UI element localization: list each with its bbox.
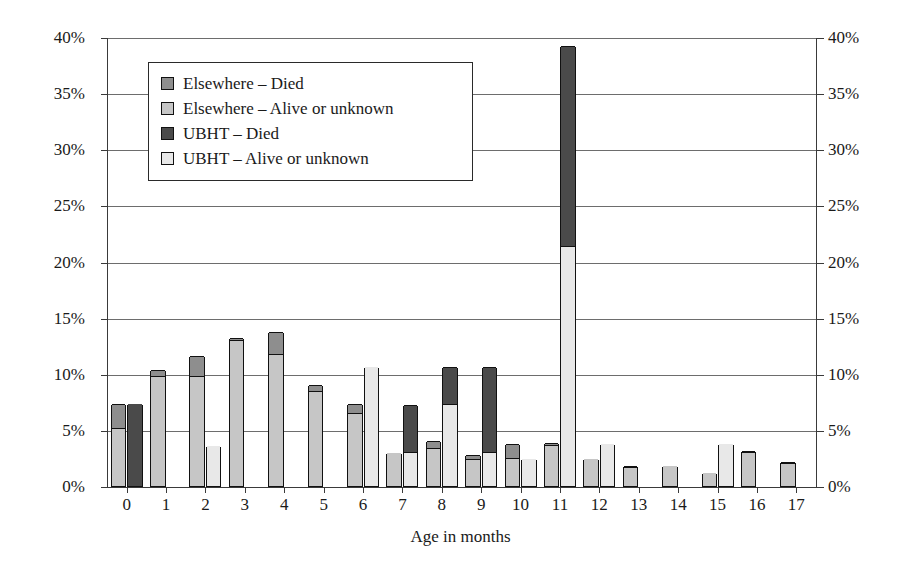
y-tick-label-left-25: 25% xyxy=(54,197,85,214)
x-tick-mark xyxy=(166,487,167,493)
bar-segment xyxy=(190,377,204,486)
x-tick-mark xyxy=(324,487,325,493)
gridline xyxy=(107,319,816,320)
legend-item-elsewhere-died: Elsewhere – Died xyxy=(161,71,460,96)
y-tick-mark xyxy=(101,38,108,39)
bar-elsewhere-month-14 xyxy=(662,467,678,487)
bar-segment xyxy=(483,367,497,453)
legend-item-ubht-died: UBHT – Died xyxy=(161,121,460,146)
bar-elsewhere-month-4 xyxy=(268,333,284,487)
x-tick-label-3: 3 xyxy=(225,496,265,514)
bar-segment xyxy=(427,449,441,486)
y-tick-mark xyxy=(817,38,824,39)
bar-elsewhere-month-8 xyxy=(426,442,442,487)
x-tick-label-1: 1 xyxy=(146,496,186,514)
gridline xyxy=(107,206,816,207)
legend-swatch-elsewhere-alive xyxy=(161,102,174,115)
y-tick-mark xyxy=(101,487,108,488)
gridline xyxy=(107,38,816,39)
x-tick-mark xyxy=(796,487,797,493)
bar-segment xyxy=(506,444,520,459)
x-tick-mark xyxy=(757,487,758,493)
bar-segment xyxy=(151,377,165,486)
x-tick-mark xyxy=(521,487,522,493)
bar-elsewhere-month-6 xyxy=(347,405,363,487)
bar-segment xyxy=(404,405,418,453)
bar-elsewhere-month-12 xyxy=(583,460,599,487)
y-tick-mark xyxy=(817,150,824,151)
bar-segment xyxy=(624,468,638,486)
y-tick-mark xyxy=(817,487,824,488)
bar-ubht-month-12 xyxy=(600,445,616,487)
y-tick-mark xyxy=(101,263,108,264)
gridline xyxy=(107,375,816,376)
bar-segment xyxy=(387,453,401,486)
legend-label-ubht-alive: UBHT – Alive or unknown xyxy=(183,150,369,167)
bar-segment xyxy=(663,466,677,486)
y-tick-label-left-35: 35% xyxy=(54,85,85,102)
x-tick-mark xyxy=(718,487,719,493)
x-axis-title: Age in months xyxy=(0,527,921,547)
legend-item-ubht-alive: UBHT – Alive or unknown xyxy=(161,146,460,171)
y-tick-label-right-25: 25% xyxy=(828,197,859,214)
y-tick-mark xyxy=(817,94,824,95)
y-tick-label-left-0: 0% xyxy=(62,478,85,495)
x-tick-label-5: 5 xyxy=(304,496,344,514)
x-tick-mark xyxy=(481,487,482,493)
bar-ubht-month-0 xyxy=(127,405,143,487)
y-tick-label-right-10: 10% xyxy=(828,366,859,383)
x-tick-mark xyxy=(205,487,206,493)
y-tick-mark xyxy=(101,94,108,95)
bar-ubht-month-10 xyxy=(521,460,537,487)
bar-segment xyxy=(781,462,795,464)
bar-elsewhere-month-11 xyxy=(544,444,560,487)
y-tick-mark xyxy=(817,206,824,207)
legend-item-elsewhere-alive: Elsewhere – Alive or unknown xyxy=(161,96,460,121)
y-tick-label-right-30: 30% xyxy=(828,141,859,158)
x-tick-label-9: 9 xyxy=(461,496,501,514)
bar-segment xyxy=(545,443,559,445)
bar-elsewhere-month-7 xyxy=(386,454,402,487)
x-tick-mark xyxy=(245,487,246,493)
bar-segment xyxy=(230,338,244,341)
bar-segment xyxy=(365,367,379,486)
chart-legend: Elsewhere – Died Elsewhere – Alive or un… xyxy=(148,62,473,181)
bar-elsewhere-month-3 xyxy=(229,339,245,487)
x-tick-label-12: 12 xyxy=(579,496,619,514)
x-tick-label-7: 7 xyxy=(382,496,422,514)
bar-segment xyxy=(545,446,559,486)
bar-segment xyxy=(561,46,575,247)
bar-elsewhere-month-2 xyxy=(189,357,205,487)
bar-segment xyxy=(112,404,126,429)
x-tick-mark xyxy=(442,487,443,493)
bar-segment xyxy=(427,441,441,449)
bar-segment xyxy=(742,453,756,486)
bar-elsewhere-month-0 xyxy=(111,405,127,487)
x-tick-mark xyxy=(127,487,128,493)
y-tick-label-right-20: 20% xyxy=(828,254,859,271)
x-tick-mark xyxy=(599,487,600,493)
legend-label-elsewhere-alive: Elsewhere – Alive or unknown xyxy=(183,100,394,117)
legend-swatch-elsewhere-died xyxy=(161,77,174,90)
bar-segment xyxy=(742,451,756,453)
x-tick-label-13: 13 xyxy=(619,496,659,514)
y-tick-mark xyxy=(817,375,824,376)
y-tick-label-left-5: 5% xyxy=(62,422,85,439)
gridline xyxy=(107,263,816,264)
bar-segment xyxy=(466,455,480,461)
bar-segment xyxy=(309,385,323,392)
y-tick-mark xyxy=(101,206,108,207)
legend-swatch-ubht-died xyxy=(161,127,174,140)
x-tick-mark xyxy=(678,487,679,493)
y-tick-mark xyxy=(101,319,108,320)
bar-segment xyxy=(443,405,457,486)
legend-swatch-ubht-alive xyxy=(161,152,174,165)
bar-elsewhere-month-13 xyxy=(623,467,639,487)
bar-elsewhere-month-17 xyxy=(780,463,796,487)
bar-segment xyxy=(230,341,244,486)
bar-segment xyxy=(466,460,480,486)
y-tick-label-right-15: 15% xyxy=(828,310,859,327)
y-tick-mark xyxy=(817,263,824,264)
x-tick-mark xyxy=(363,487,364,493)
bar-segment xyxy=(269,332,283,354)
